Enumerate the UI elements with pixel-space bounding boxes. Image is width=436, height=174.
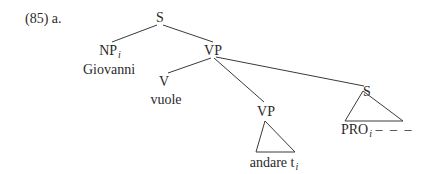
word-giovanni: Giovanni	[83, 63, 135, 77]
edge-vp-v	[168, 58, 211, 73]
edge-s-vp	[163, 25, 213, 42]
triangle-s-embedded	[345, 91, 403, 121]
node-s-root: S	[156, 11, 164, 25]
edge-vp-s	[216, 57, 364, 86]
node-v: V	[159, 75, 169, 89]
word-pro: PRO	[341, 122, 368, 137]
node-s-embedded: S	[363, 85, 371, 99]
phrase-andare-trace: andare ti	[250, 156, 298, 174]
example-number: (85) a.	[25, 12, 62, 26]
trace-index: i	[295, 161, 298, 172]
node-np-label: NP	[99, 43, 117, 58]
pro-continuation-dashes: – – –	[376, 122, 414, 137]
word-vuole: vuole	[150, 93, 181, 107]
pro-index: i	[369, 128, 372, 139]
np-index: i	[118, 49, 121, 60]
node-np-subject: NPi	[99, 44, 121, 62]
triangle-vp-embedded	[256, 121, 295, 152]
node-vp: VP	[204, 44, 222, 58]
syntax-tree-diagram: (85) a. S NPi Giovanni VP V vuole VP and…	[0, 0, 436, 174]
node-vp-embedded: VP	[257, 105, 275, 119]
trace: t	[291, 155, 295, 170]
phrase-pro: PROi – – –	[341, 123, 414, 141]
word-andare: andare	[250, 155, 287, 170]
edge-s-np	[112, 25, 157, 42]
